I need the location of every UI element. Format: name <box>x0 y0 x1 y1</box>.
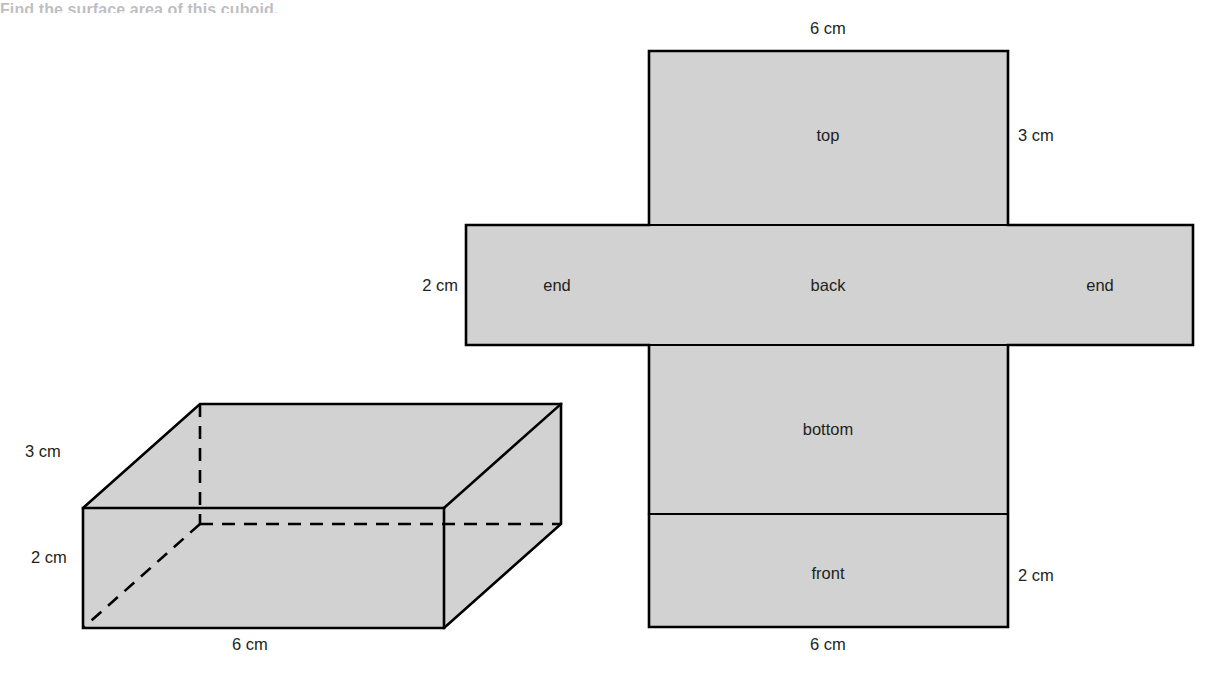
net-dim-front-width: 6 cm <box>810 635 846 653</box>
net-label-bottom: bottom <box>803 420 853 438</box>
net-dim-top-width: 6 cm <box>810 19 846 37</box>
net-label-end-right: end <box>1086 276 1114 294</box>
net-dim-top-right-height: 3 cm <box>1018 126 1054 144</box>
net-label-end-left: end <box>543 276 571 294</box>
cuboid-3d-figure: 3 cm 2 cm 6 cm <box>25 404 561 653</box>
cuboid-net-figure: top end back end bottom front 6 cm 3 cm … <box>422 19 1193 653</box>
cuboid-dim-width: 6 cm <box>232 635 268 653</box>
diagram-canvas: Find the surface area of this cuboid. to… <box>0 0 1213 681</box>
net-dim-end-left-height: 2 cm <box>422 276 458 294</box>
cuboid-face-front-fill <box>83 508 444 628</box>
net-label-front: front <box>811 564 844 582</box>
net-label-top: top <box>817 126 840 144</box>
cuboid-dim-height: 2 cm <box>31 548 67 566</box>
net-label-back: back <box>811 276 847 294</box>
net-dim-front-right-height: 2 cm <box>1018 566 1054 584</box>
diagram-svg: top end back end bottom front 6 cm 3 cm … <box>0 0 1213 681</box>
cuboid-dim-depth: 3 cm <box>25 442 61 460</box>
